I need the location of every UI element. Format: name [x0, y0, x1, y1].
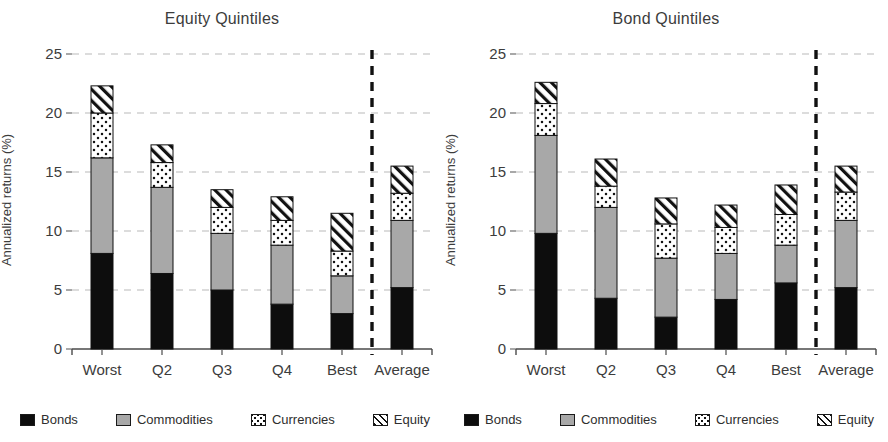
legend-swatch-equity [817, 414, 832, 426]
x-tick-label: Best [771, 361, 802, 378]
y-tick-label: 25 [489, 45, 506, 62]
bar-segment-currencies [391, 193, 413, 220]
bar-segment-currencies [331, 251, 353, 276]
bar-segment-bonds [271, 304, 293, 349]
y-tick-label: 10 [45, 222, 62, 239]
bar-segment-equity [595, 159, 617, 186]
bar-segment-commodities [211, 233, 233, 290]
x-tick-label: Average [374, 361, 430, 378]
bar-segment-equity [655, 198, 677, 224]
legend-item-commodities: Commodities [560, 413, 657, 426]
bar-segment-commodities [391, 220, 413, 287]
legend-swatch-currencies [695, 414, 710, 426]
bar-segment-equity [331, 213, 353, 251]
legend-label-commodities: Commodities [581, 413, 657, 426]
legend-label-currencies: Currencies [272, 413, 335, 426]
x-tick-label: Q3 [656, 361, 676, 378]
bar-segment-commodities [535, 135, 557, 233]
bar-segment-commodities [595, 207, 617, 298]
legend-label-bonds: Bonds [41, 413, 78, 426]
legend-swatch-bonds [464, 414, 479, 426]
x-tick-label: Q2 [596, 361, 616, 378]
bar-segment-commodities [835, 220, 857, 287]
bar-segment-equity [535, 82, 557, 103]
bar-segment-currencies [835, 192, 857, 220]
bar-segment-bonds [535, 233, 557, 349]
legend-label-bonds: Bonds [485, 413, 522, 426]
stacked-bar-figure: Equity Quintiles Annualized returns (%) … [0, 0, 888, 442]
y-tick-label: 10 [489, 222, 506, 239]
y-tick-label: 25 [45, 45, 62, 62]
panel-bond-quintiles: Bond Quintiles Annualized returns (%) 05… [444, 0, 888, 442]
bar-segment-commodities [715, 253, 737, 299]
legend-bond: Bonds Commodities Currencies Equity [464, 413, 874, 426]
y-tick-label: 20 [45, 104, 62, 121]
bar-segment-bonds [91, 253, 113, 349]
y-tick-label: 5 [54, 281, 62, 298]
bar-segment-equity [91, 86, 113, 113]
x-tick-label: Worst [527, 361, 567, 378]
x-tick-label: Q3 [212, 361, 232, 378]
legend-item-equity: Equity [817, 413, 874, 426]
legend-label-currencies: Currencies [716, 413, 779, 426]
bar-segment-currencies [715, 227, 737, 253]
bar-segment-bonds [595, 298, 617, 349]
legend-swatch-bonds [20, 414, 35, 426]
bar-segment-equity [715, 205, 737, 227]
bar-segment-equity [775, 185, 797, 215]
legend-label-equity: Equity [838, 413, 874, 426]
y-tick-label: 15 [45, 163, 62, 180]
x-tick-label: Q4 [716, 361, 736, 378]
bar-segment-equity [151, 145, 173, 163]
x-tick-label: Q2 [152, 361, 172, 378]
bar-segment-bonds [331, 314, 353, 349]
legend-equity: Bonds Commodities Currencies Equity [20, 413, 430, 426]
y-tick-label: 0 [54, 340, 62, 357]
x-tick-label: Best [327, 361, 358, 378]
bar-segment-commodities [271, 245, 293, 304]
legend-swatch-currencies [251, 414, 266, 426]
bar-segment-commodities [331, 276, 353, 314]
bar-segment-equity [271, 197, 293, 221]
legend-item-currencies: Currencies [251, 413, 335, 426]
bar-segment-bonds [715, 299, 737, 349]
bar-segment-commodities [775, 245, 797, 283]
plot-area-bond: 0510152025WorstQ2Q3Q4BestAverage [444, 0, 888, 442]
x-tick-label: Average [818, 361, 874, 378]
bar-segment-bonds [391, 288, 413, 349]
legend-item-bonds: Bonds [464, 413, 522, 426]
legend-swatch-commodities [116, 414, 131, 426]
y-tick-label: 0 [498, 340, 506, 357]
bar-segment-currencies [91, 113, 113, 158]
bar-segment-currencies [271, 220, 293, 245]
y-tick-label: 5 [498, 281, 506, 298]
panel-equity-quintiles: Equity Quintiles Annualized returns (%) … [0, 0, 444, 442]
bar-segment-commodities [91, 158, 113, 254]
y-tick-label: 15 [489, 163, 506, 180]
legend-item-commodities: Commodities [116, 413, 213, 426]
x-tick-label: Q4 [272, 361, 292, 378]
bar-segment-currencies [655, 224, 677, 258]
legend-label-equity: Equity [394, 413, 430, 426]
bar-segment-bonds [151, 273, 173, 349]
bar-segment-equity [391, 166, 413, 193]
bar-segment-commodities [151, 187, 173, 273]
bar-segment-equity [211, 190, 233, 208]
legend-label-commodities: Commodities [137, 413, 213, 426]
bar-segment-commodities [655, 258, 677, 317]
legend-item-currencies: Currencies [695, 413, 779, 426]
legend-swatch-equity [373, 414, 388, 426]
bar-segment-equity [835, 166, 857, 192]
y-tick-label: 20 [489, 104, 506, 121]
bar-segment-bonds [835, 288, 857, 349]
legend-swatch-commodities [560, 414, 575, 426]
x-tick-label: Worst [83, 361, 123, 378]
bar-segment-bonds [211, 290, 233, 349]
bar-segment-currencies [535, 104, 557, 136]
bar-segment-currencies [595, 186, 617, 207]
bar-segment-currencies [211, 207, 233, 233]
bar-segment-currencies [775, 214, 797, 245]
bar-segment-bonds [775, 283, 797, 349]
plot-area-equity: 0510152025WorstQ2Q3Q4BestAverage [0, 0, 444, 442]
bar-segment-bonds [655, 317, 677, 349]
